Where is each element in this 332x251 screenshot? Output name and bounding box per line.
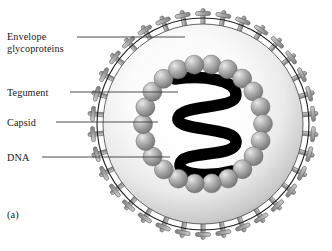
spike-head (310, 126, 315, 141)
capsid-sphere (219, 169, 238, 188)
capsid-sphere (136, 132, 155, 151)
spike-head (215, 229, 231, 236)
capsid-sphere (254, 114, 273, 133)
spike-head (195, 12, 210, 16)
label-envelope-glycoproteins: Envelope glycoproteins (7, 31, 64, 54)
label-capsid: Capsid (7, 117, 36, 129)
capsid-sphere (185, 174, 204, 193)
capsid-sphere (134, 115, 153, 134)
capsid-sphere (202, 55, 221, 74)
panel-label: (a) (7, 209, 19, 221)
capsid-sphere (251, 97, 270, 116)
capsid-sphere (168, 60, 187, 79)
capsid-sphere (185, 55, 204, 74)
label-dna: DNA (7, 152, 29, 164)
spike-head (195, 233, 210, 237)
capsid-sphere (202, 174, 221, 193)
spike-head (175, 12, 191, 19)
spike-head (90, 126, 95, 141)
spike-head (90, 106, 95, 121)
spike-head (215, 12, 231, 19)
label-tegument: Tegument (7, 87, 48, 99)
spike-head (310, 106, 315, 121)
spike-head (175, 229, 191, 236)
